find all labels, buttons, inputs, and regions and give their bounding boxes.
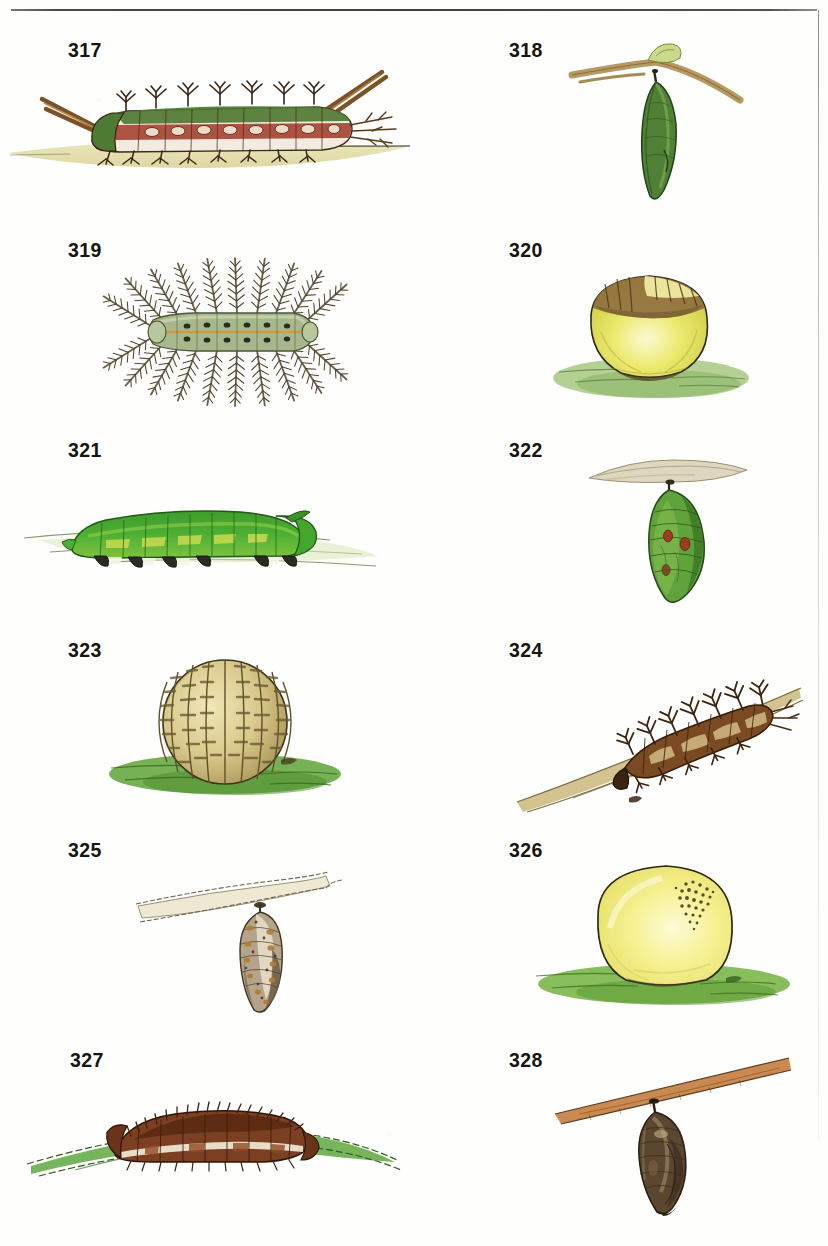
figure-art-317 (0, 55, 414, 185)
figure-cell-325: 325 (0, 830, 414, 1040)
figure-art-326 (514, 844, 804, 1024)
figure-label-325: 325 (68, 841, 102, 861)
plate-page: 317 (0, 0, 828, 1246)
figure-label-320: 320 (509, 241, 543, 261)
figure-art-324 (509, 650, 809, 820)
figure-art-328 (549, 1046, 799, 1231)
figure-cell-327: 327 (0, 1040, 414, 1246)
figure-art-320 (539, 248, 769, 423)
figure-cell-322: 322 (414, 430, 828, 630)
figure-cell-326: 326 (414, 830, 828, 1040)
figure-cell-321: 321 (0, 430, 414, 630)
figure-label-327: 327 (70, 1051, 104, 1071)
figure-cell-319: 319 (0, 230, 414, 430)
figure-label-318: 318 (509, 41, 543, 61)
figure-cell-317: 317 (0, 0, 414, 230)
figure-cell-318: 318 (414, 0, 828, 230)
figure-art-325 (130, 852, 380, 1027)
figure-art-321 (10, 478, 400, 598)
figure-cell-324: 324 (414, 630, 828, 830)
figure-cell-328: 328 (414, 1040, 828, 1246)
figure-art-327 (15, 1082, 405, 1202)
figure-grid: 317 (0, 0, 828, 1246)
figure-label-321: 321 (68, 441, 102, 461)
figure-art-323 (85, 642, 365, 812)
figure-label-328: 328 (509, 1051, 543, 1071)
figure-art-322 (569, 442, 779, 622)
figure-cell-320: 320 (414, 230, 828, 430)
figure-art-318 (544, 20, 794, 225)
figure-cell-323: 323 (0, 630, 414, 830)
figure-label-322: 322 (509, 441, 543, 461)
figure-art-319 (95, 248, 355, 418)
